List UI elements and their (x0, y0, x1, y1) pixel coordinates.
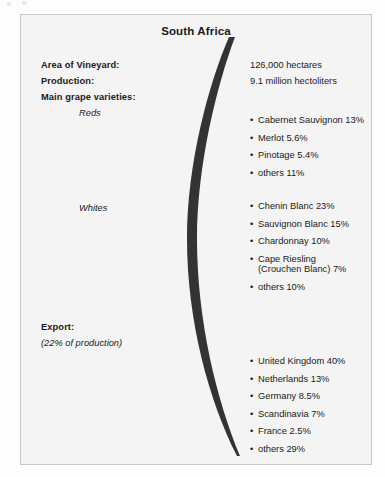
bullet-icon: • (250, 201, 253, 211)
list-item-label: Merlot 5.6% (258, 133, 308, 143)
bullet-icon: • (250, 254, 253, 264)
bullet-icon: • (250, 168, 253, 178)
list-item-label: Germany 8.5% (258, 391, 320, 401)
list-item-label: Cabernet Sauvignon 13% (258, 115, 364, 125)
scanned-page: South Africa Area of Vineyard: 126,000 h… (0, 0, 385, 477)
scan-artifact (7, 2, 11, 6)
bullet-icon: • (250, 115, 253, 125)
list-item: • others 11% (250, 168, 372, 178)
list-item: • others 10% (250, 282, 372, 292)
list-item-label: Chardonnay 10% (258, 236, 330, 246)
list-item-continuation: (Crouchen Blanc) 7% (258, 264, 372, 274)
list-item-label: Chenin Blanc 23% (258, 201, 335, 211)
bullet-icon: • (250, 391, 253, 401)
list-item: • Merlot 5.6% (250, 133, 372, 143)
bullet-icon: • (250, 444, 253, 454)
bullet-icon: • (250, 282, 253, 292)
bullet-icon: • (250, 426, 253, 436)
list-item: • Scandinavia 7% (250, 409, 372, 419)
label-export: Export: (41, 322, 211, 332)
label-reds: Reds (41, 108, 249, 118)
list-item: • France 2.5% (250, 426, 372, 436)
list-export-destinations: • United Kingdom 40% • Netherlands 13% •… (250, 356, 372, 462)
list-item-label: France 2.5% (258, 426, 311, 436)
fact-card: South Africa Area of Vineyard: 126,000 h… (20, 14, 372, 465)
value-area-of-vineyard: 126,000 hectares (250, 60, 372, 70)
list-item: • Cabernet Sauvignon 13% (250, 115, 372, 125)
list-item: • Chardonnay 10% (250, 236, 372, 246)
bullet-icon: • (250, 409, 253, 419)
list-item: • Netherlands 13% (250, 374, 372, 384)
list-item: • Chenin Blanc 23% (250, 201, 372, 211)
list-item-label: Cape Riesling (258, 254, 316, 264)
list-item: • Cape Riesling (Crouchen Blanc) 7% (250, 254, 372, 275)
bullet-icon: • (250, 356, 253, 366)
list-item-label: United Kingdom 40% (258, 356, 345, 366)
label-production: Production: (41, 76, 211, 86)
label-area-of-vineyard: Area of Vineyard: (41, 60, 211, 70)
list-item: • United Kingdom 40% (250, 356, 372, 366)
value-production: 9.1 million hectoliters (250, 76, 372, 86)
list-item-label: Scandinavia 7% (258, 409, 325, 419)
list-reds: • Cabernet Sauvignon 13% • Merlot 5.6% •… (250, 115, 372, 185)
bullet-icon: • (250, 374, 253, 384)
bullet-icon: • (250, 236, 253, 246)
list-item: • others 29% (250, 444, 372, 454)
label-main-grape-varieties: Main grape varieties: (41, 92, 211, 102)
list-item-label: others 10% (258, 282, 305, 292)
page-title: South Africa (21, 25, 371, 37)
list-whites: • Chenin Blanc 23% • Sauvignon Blanc 15%… (250, 201, 372, 299)
list-item-label: Pinotage 5.4% (258, 150, 318, 160)
label-export-share: (22% of production) (41, 338, 211, 348)
list-item-label: Sauvignon Blanc 15% (258, 219, 349, 229)
list-item-label: others 11% (258, 168, 304, 178)
bullet-icon: • (250, 133, 253, 143)
bullet-icon: • (250, 219, 253, 229)
list-item: • Pinotage 5.4% (250, 150, 372, 160)
list-item-label: others 29% (258, 444, 305, 454)
list-item: • Germany 8.5% (250, 391, 372, 401)
bullet-icon: • (250, 150, 253, 160)
scan-artifact (22, 1, 27, 5)
label-whites: Whites (41, 203, 249, 213)
list-item-label: Netherlands 13% (258, 374, 329, 384)
list-item: • Sauvignon Blanc 15% (250, 219, 372, 229)
